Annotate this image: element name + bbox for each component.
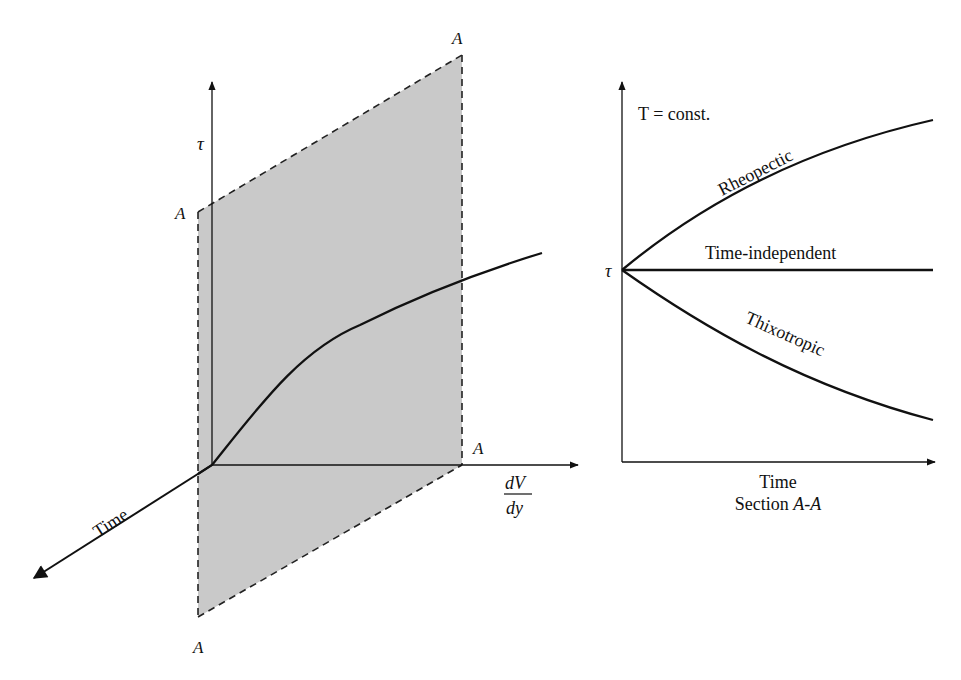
thixotropic-curve (622, 270, 933, 420)
section-aa-chart: T = const. τ Rheopectic Time-independent… (605, 82, 935, 514)
shear-rate-denominator: dy (506, 498, 523, 518)
plane-corner-label-left: A (174, 204, 186, 223)
plane-corner-label-right: A (472, 439, 484, 458)
rheology-figure: τ A A A A dV dy Time T = const. τ Rheope… (0, 0, 961, 680)
shear-rate-numerator: dV (505, 473, 527, 493)
plane-corner-label-top: A (451, 29, 463, 48)
section-caption-italic: A-A (792, 494, 822, 514)
x-axis-label: Time (759, 472, 796, 492)
time-axis-3d-label: Time (89, 504, 131, 541)
section-caption-prefix: Section (735, 494, 794, 514)
constant-temperature-note: T = const. (638, 104, 710, 124)
time-independent-label: Time-independent (705, 243, 836, 263)
rheopectic-label: Rheopectic (715, 145, 796, 200)
section-plane (198, 55, 462, 617)
left-3d-diagram: τ A A A A dV dy Time (34, 29, 578, 657)
tau-axis-label: τ (197, 133, 205, 154)
y-axis-label: τ (605, 261, 612, 281)
shear-rate-axis-label: dV dy (504, 473, 532, 518)
section-caption: Section A-A (735, 494, 822, 514)
plane-corner-label-bottom: A (192, 638, 204, 657)
condition-text: T = const. (638, 104, 710, 124)
